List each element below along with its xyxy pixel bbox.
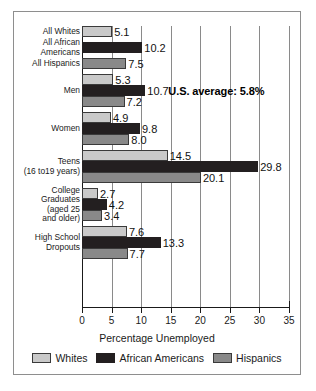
x-tick [141,308,142,313]
category-label: All African Americans [18,38,80,56]
bar [82,112,111,123]
bar [82,210,102,221]
axis-end-cap [289,301,290,308]
bar-value-label: 13.3 [163,237,184,248]
x-tick-label: 30 [254,315,265,326]
x-tick [112,308,113,313]
category-label: High School Dropouts [18,233,80,251]
bar-row: 14.5 [82,150,289,161]
legend-item: Hispanics [213,352,282,364]
axis-end-cap [82,301,83,308]
bar-value-label: 10.2 [144,42,165,53]
category-label: All Whites [18,27,80,36]
x-tick-label: 15 [165,315,176,326]
x-tick [230,308,231,313]
bar [82,199,107,210]
x-tick [82,308,83,313]
x-tick-label: 35 [283,315,294,326]
bar-value-label: 7.7 [130,248,145,259]
x-axis-label: Percentage Unemployed [14,332,300,344]
chart-figure: All WhitesAll African AmericansAll Hispa… [13,11,301,375]
bar [82,172,201,183]
plot-area: 5.110.27.55.310.77.24.99.88.014.529.820.… [82,26,289,307]
bar-row: 5.1 [82,26,289,37]
us-average-annotation: U.S. average: 5.8% [168,85,264,97]
bar-value-label: 4.9 [113,112,128,123]
bar [82,188,98,199]
legend-item: African Americans [96,352,204,364]
gridline-35 [289,26,290,307]
legend-item: Whites [32,352,87,364]
bar-row: 9.8 [82,123,289,134]
bar [82,58,126,69]
x-tick-label: 10 [136,315,147,326]
bar-row: 7.2 [82,96,289,107]
category-label: All Hispanics [18,59,80,68]
bar-value-label: 5.3 [115,74,130,85]
legend-swatch [213,353,232,363]
bar [82,96,125,107]
legend-label: African Americans [119,352,204,364]
bar-value-label: 29.8 [260,161,281,172]
category-label: College Graduates (aged 25 and older) [18,186,80,223]
bar-row: 7.5 [82,58,289,69]
bar-row: 20.1 [82,172,289,183]
x-tick [259,308,260,313]
x-tick [289,308,290,313]
x-tick [200,308,201,313]
x-tick-label: 0 [79,315,85,326]
bar-row: 8.0 [82,134,289,145]
x-tick [171,308,172,313]
category-label-axis: All WhitesAll African AmericansAll Hispa… [16,26,80,307]
bar-value-label: 7.6 [129,226,144,237]
chart-legend: WhitesAfrican AmericansHispanics [14,352,300,364]
bar [82,74,113,85]
bar-value-label: 3.4 [104,210,119,221]
bar [82,248,128,259]
legend-label: Hispanics [236,352,282,364]
bar [82,161,258,172]
x-tick-label: 25 [224,315,235,326]
bar [82,42,142,53]
bar [82,134,129,145]
category-label: Teens (16 to19 years) [18,157,80,175]
x-tick-label: 20 [195,315,206,326]
bar-value-label: 10.7 [147,85,168,96]
category-label: Men [18,86,80,95]
bar [82,226,127,237]
category-label: Women [18,124,80,133]
bar-row: 7.7 [82,248,289,259]
x-axis-line [82,307,289,308]
bar-row: 5.3 [82,74,289,85]
bar-value-label: 20.1 [203,172,224,183]
bar-value-label: 5.1 [114,26,129,37]
bar-value-label: 7.5 [128,58,143,69]
bar-row: 7.6 [82,226,289,237]
bar [82,237,161,248]
bar-row: 29.8 [82,161,289,172]
legend-label: Whites [55,352,87,364]
bar-row: 13.3 [82,237,289,248]
bar-value-label: 7.2 [127,96,142,107]
bar-value-label: 14.5 [170,150,191,161]
bar [82,26,112,37]
x-tick-label: 5 [109,315,115,326]
legend-swatch [32,353,51,363]
bar-row: 10.2 [82,42,289,53]
bar-row: 4.9 [82,112,289,123]
legend-swatch [96,353,115,363]
bar [82,150,168,161]
bar-value-label: 8.0 [131,134,146,145]
bar-row: 3.4 [82,210,289,221]
